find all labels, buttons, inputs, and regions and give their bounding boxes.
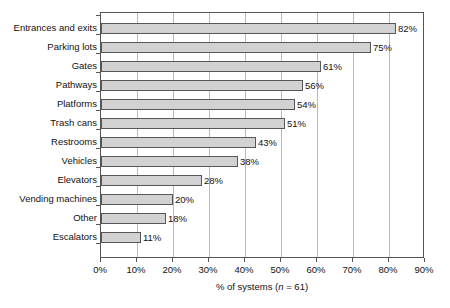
bar-value-label: 20% xyxy=(173,192,194,207)
bar-value-label: 18% xyxy=(166,211,187,226)
bar-value-label: 54% xyxy=(295,97,316,112)
y-axis-tick xyxy=(96,129,100,130)
bar xyxy=(101,42,371,53)
bar xyxy=(101,23,396,34)
y-axis-tick xyxy=(96,53,100,54)
y-axis-tick xyxy=(96,34,100,35)
category-label: Parking lots xyxy=(0,37,97,56)
bar-row: 18% xyxy=(101,209,423,228)
bar-value-label: 75% xyxy=(371,40,392,55)
category-label: Gates xyxy=(0,56,97,75)
bar-row: 43% xyxy=(101,133,423,152)
bar-row: 20% xyxy=(101,190,423,209)
bar xyxy=(101,118,285,129)
category-label: Escalators xyxy=(0,227,97,246)
bar-value-label: 56% xyxy=(303,78,324,93)
category-label: Restrooms xyxy=(0,132,97,151)
sample-size-symbol: n xyxy=(278,281,283,292)
category-label: Vending machines xyxy=(0,189,97,208)
y-axis-tick xyxy=(96,186,100,187)
bar-value-label: 82% xyxy=(396,21,417,36)
x-axis-tick xyxy=(316,258,317,262)
y-axis-tick xyxy=(96,148,100,149)
x-axis-tick xyxy=(352,258,353,262)
bar-row: 75% xyxy=(101,38,423,57)
y-axis-tick xyxy=(96,205,100,206)
x-axis-tick-label: 0% xyxy=(80,263,120,276)
bar xyxy=(101,99,295,110)
x-axis-tick xyxy=(208,258,209,262)
x-axis-tick-label: 60% xyxy=(296,263,336,276)
bar-row: 82% xyxy=(101,19,423,38)
bar xyxy=(101,213,166,224)
bar-row: 51% xyxy=(101,114,423,133)
bar-value-label: 51% xyxy=(285,116,306,131)
bar-row: 28% xyxy=(101,171,423,190)
y-axis-tick xyxy=(96,72,100,73)
x-axis-tick-label: 80% xyxy=(368,263,408,276)
y-axis-tick xyxy=(96,167,100,168)
x-axis-tick xyxy=(388,258,389,262)
bar-row: 38% xyxy=(101,152,423,171)
y-axis-tick xyxy=(96,91,100,92)
plot-area: 82%75%61%56%54%51%43%38%28%20%18%11% xyxy=(100,12,424,258)
category-label: Pathways xyxy=(0,75,97,94)
bar-value-label: 38% xyxy=(238,154,259,169)
category-label: Elevators xyxy=(0,170,97,189)
bar-chart: Entrances and exitsParking lotsGatesPath… xyxy=(0,0,450,308)
y-axis-tick xyxy=(96,15,100,16)
x-axis-tick xyxy=(172,258,173,262)
x-axis-tick xyxy=(244,258,245,262)
bar xyxy=(101,156,238,167)
bar xyxy=(101,137,256,148)
x-axis-tick-label: 50% xyxy=(260,263,300,276)
x-axis-tick xyxy=(100,258,101,262)
y-axis-tick xyxy=(96,110,100,111)
bar-value-label: 28% xyxy=(202,173,223,188)
x-axis-title: % of systems (n = 61) xyxy=(100,281,424,292)
x-axis-tick xyxy=(136,258,137,262)
bar-row: 61% xyxy=(101,57,423,76)
bar xyxy=(101,61,321,72)
bar-value-label: 43% xyxy=(256,135,277,150)
y-axis-tick xyxy=(96,224,100,225)
x-axis-tick-label: 70% xyxy=(332,263,372,276)
category-label: Other xyxy=(0,208,97,227)
x-axis-tick xyxy=(424,258,425,262)
x-axis-tick xyxy=(280,258,281,262)
x-axis-tick-label: 20% xyxy=(152,263,192,276)
category-label: Trash cans xyxy=(0,113,97,132)
category-label: Entrances and exits xyxy=(0,18,97,37)
bar xyxy=(101,80,303,91)
category-axis-labels: Entrances and exitsParking lotsGatesPath… xyxy=(0,12,97,258)
x-axis-tick-label: 30% xyxy=(188,263,228,276)
bar xyxy=(101,175,202,186)
x-axis-tick-label: 10% xyxy=(116,263,156,276)
category-label: Platforms xyxy=(0,94,97,113)
x-axis-tick-label: 40% xyxy=(224,263,264,276)
bar-rows: 82%75%61%56%54%51%43%38%28%20%18%11% xyxy=(101,13,423,257)
x-axis-tick-label: 90% xyxy=(404,263,444,276)
category-label: Vehicles xyxy=(0,151,97,170)
bar-row: 56% xyxy=(101,76,423,95)
bar xyxy=(101,232,141,243)
bar-value-label: 11% xyxy=(141,230,161,245)
bar-value-label: 61% xyxy=(321,59,342,74)
bar-row: 11% xyxy=(101,228,423,247)
bar-row: 54% xyxy=(101,95,423,114)
y-axis-tick xyxy=(96,243,100,244)
bar xyxy=(101,194,173,205)
